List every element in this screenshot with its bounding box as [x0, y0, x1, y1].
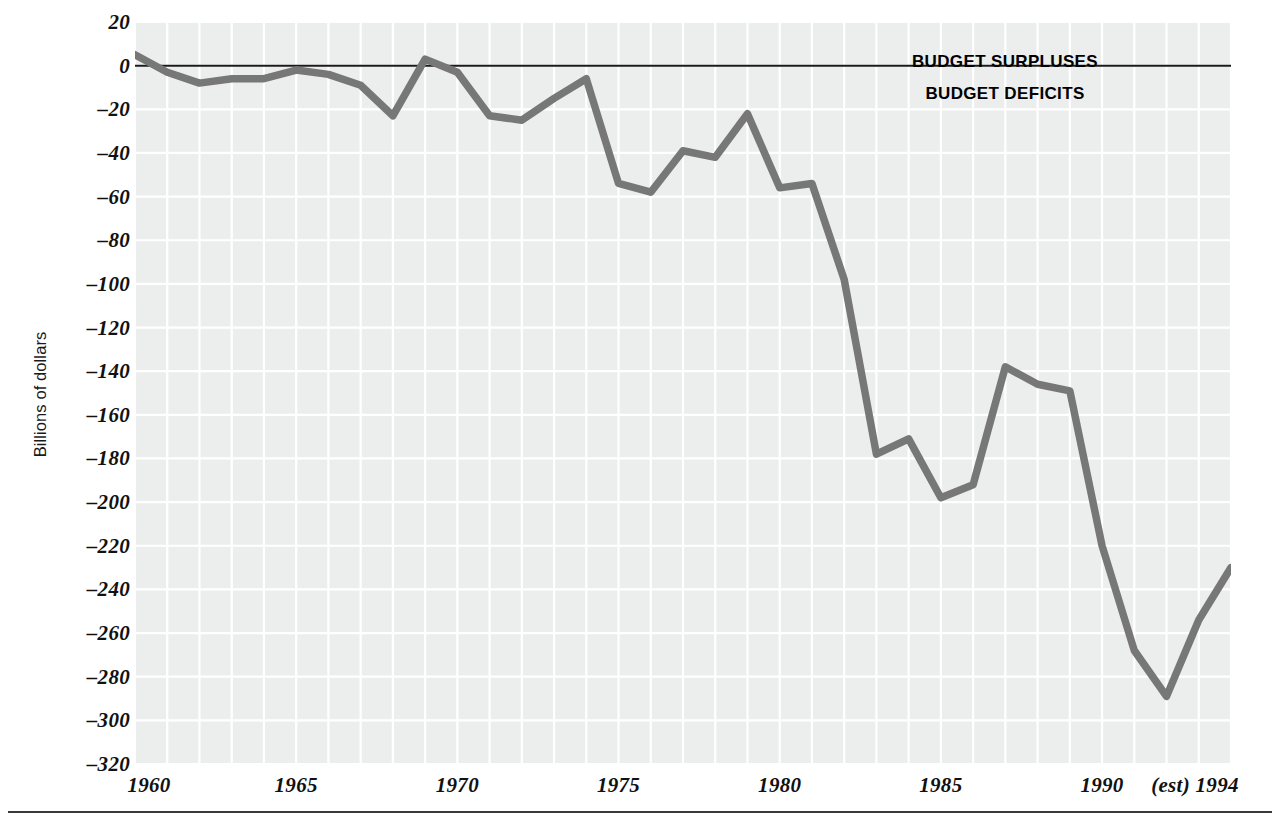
- y-axis-tick-label: –20: [10, 99, 130, 120]
- x-axis-tick-label: 1975: [597, 775, 640, 796]
- y-axis-tick-label: –80: [10, 230, 130, 251]
- y-axis-tick-label: –240: [10, 579, 130, 600]
- annotation-budget-deficits: BUDGET DEFICITS: [925, 84, 1084, 104]
- bottom-rule: [8, 811, 1272, 813]
- x-axis-tick-label: 1970: [436, 775, 479, 796]
- y-axis-tick-label: –260: [10, 623, 130, 644]
- plot-area: [135, 22, 1231, 764]
- chart-figure: Billions of dollars 200–20–40–60–80–100–…: [0, 0, 1279, 828]
- annotation-budget-surpluses: BUDGET SURPLUSES: [912, 52, 1098, 72]
- y-axis-tick-label: –220: [10, 535, 130, 556]
- y-axis-tick-label: –160: [10, 404, 130, 425]
- y-axis-tick-label: –280: [10, 666, 130, 687]
- x-axis-tick-label: 1990: [1080, 775, 1123, 796]
- x-axis-tick-label: 1985: [919, 775, 962, 796]
- y-axis-tick-label: –320: [10, 754, 130, 775]
- y-axis-tick-label: –300: [10, 710, 130, 731]
- y-axis-tick-label: –40: [10, 142, 130, 163]
- y-axis-tick-label: –140: [10, 361, 130, 382]
- x-axis-tick-label: 1980: [758, 775, 801, 796]
- y-axis-tick-label: 20: [10, 12, 130, 33]
- y-axis-tick-label: –100: [10, 273, 130, 294]
- y-axis-tick-label: 0: [10, 55, 130, 76]
- x-axis-tick-label: 1960: [127, 775, 170, 796]
- y-axis-tick-label: –60: [10, 186, 130, 207]
- x-axis-tick-label: (est) 1994: [1151, 775, 1239, 796]
- y-axis-tick-label: –200: [10, 492, 130, 513]
- plot-svg: [135, 22, 1231, 764]
- y-axis-label: Billions of dollars: [31, 275, 50, 515]
- y-axis-tick-label: –180: [10, 448, 130, 469]
- y-axis-tick-label: –120: [10, 317, 130, 338]
- x-axis-tick-label: 1965: [275, 775, 318, 796]
